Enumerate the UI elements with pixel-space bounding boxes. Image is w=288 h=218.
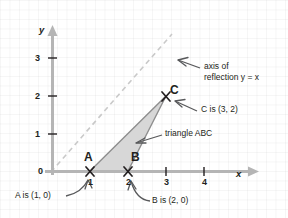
y-axis-arrowhead: [48, 25, 58, 36]
origin-label: 0: [38, 166, 43, 176]
x-axis-label: x: [236, 169, 241, 180]
callout-axis-of-reflection-line2: reflection y = x: [204, 73, 259, 83]
callout-a-coordinates: A is (1, 0): [15, 191, 51, 201]
x-axis-arrowhead: [248, 167, 259, 177]
b-callout-arrow: [128, 181, 150, 201]
x-tick-label-2: 2: [126, 177, 131, 187]
y-tick-label-3: 3: [35, 53, 40, 63]
x-tick-label-1: 1: [88, 177, 93, 187]
coordinate-graph-figure: y x 0 1 2 3 1 2 3 4 A B C axis of reflec…: [0, 0, 288, 218]
vertex-label-c: C: [170, 84, 179, 98]
point-c-marker: [162, 92, 170, 101]
x-tick-label-4: 4: [202, 177, 207, 187]
x-tick-label-3: 3: [164, 177, 169, 187]
reflection-callout-arrow: [178, 58, 200, 69]
triangle-abc-shape: [90, 96, 166, 171]
c-callout-arrow: [175, 100, 197, 112]
callout-b-coordinates: B is (2, 0): [152, 196, 188, 206]
callout-triangle-abc: triangle ABC: [165, 129, 212, 139]
callout-axis-of-reflection-line1: axis of: [204, 62, 229, 72]
vertex-label-a: A: [84, 151, 93, 165]
callout-c-coordinates: C is (3, 2): [201, 105, 238, 115]
vertex-label-b: B: [131, 151, 140, 165]
y-axis-label: y: [39, 25, 44, 36]
y-tick-label-1: 1: [35, 129, 40, 139]
y-tick-label-2: 2: [35, 91, 40, 101]
